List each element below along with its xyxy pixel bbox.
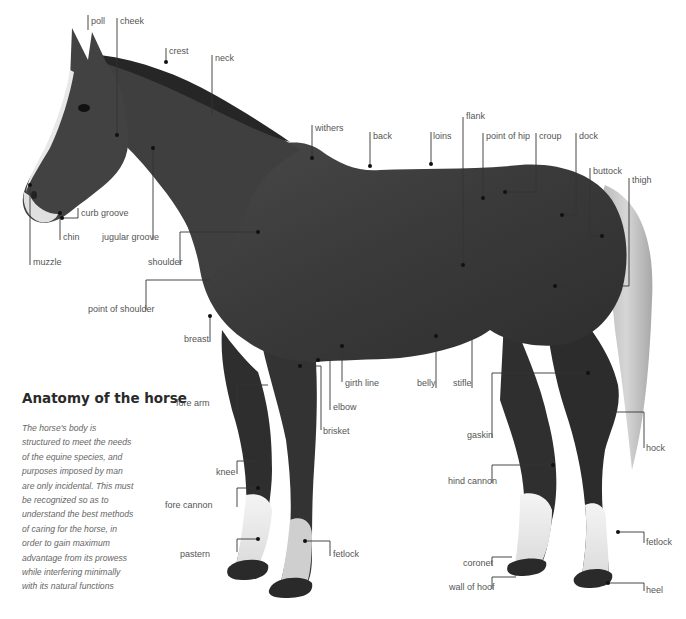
horse-anatomy-diagram: poll cheek crest neck curb groove chin m… — [0, 0, 686, 619]
label-gaskin: gaskin — [467, 430, 493, 440]
label-fetlock-fore: fetlock — [333, 549, 359, 559]
diagram-title: Anatomy of the horse — [22, 390, 187, 406]
label-crest: crest — [169, 46, 189, 56]
label-belly: belly — [417, 378, 436, 388]
label-point-of-shoulder: point of shoulder — [88, 304, 155, 314]
label-back: back — [373, 131, 392, 141]
label-fore-cannon: fore cannon — [165, 500, 213, 510]
label-girth-line: girth line — [345, 378, 379, 388]
label-heel: heel — [646, 585, 663, 595]
label-withers: withers — [315, 123, 344, 133]
label-buttock: buttock — [593, 166, 622, 176]
label-fetlock-hind: fetlock — [646, 537, 672, 547]
label-neck: neck — [215, 53, 234, 63]
label-shoulder: shoulder — [148, 257, 183, 267]
label-dock: dock — [579, 131, 598, 141]
label-curb-groove: curb groove — [81, 208, 129, 218]
label-flank: flank — [466, 111, 485, 121]
diagram-description: The horse's body is structured to meet t… — [22, 421, 134, 594]
label-muzzle: muzzle — [33, 257, 62, 267]
label-pastern: pastern — [180, 549, 210, 559]
label-croup: croup — [539, 131, 562, 141]
label-hind-cannon: hind cannon — [448, 476, 497, 486]
label-cheek: cheek — [120, 16, 144, 26]
label-poll: poll — [91, 16, 105, 26]
label-knee: knee — [216, 467, 236, 477]
label-point-of-hip: point of hip — [486, 131, 530, 141]
label-thigh: thigh — [632, 175, 652, 185]
label-loins: loins — [433, 131, 452, 141]
label-coronet: coronet — [463, 558, 493, 568]
label-brisket: brisket — [323, 426, 350, 436]
label-jugular-groove: jugular groove — [102, 232, 159, 242]
label-breast: breast — [184, 334, 209, 344]
label-hock: hock — [646, 443, 665, 453]
label-elbow: elbow — [333, 402, 357, 412]
label-chin: chin — [63, 232, 80, 242]
label-wall-of-hoof: wall of hoof — [449, 582, 495, 592]
label-stifle: stifle — [453, 378, 472, 388]
